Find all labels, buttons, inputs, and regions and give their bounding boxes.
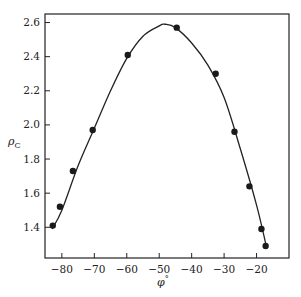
- y-tick-label: 1.8: [23, 153, 40, 165]
- y-tick-label: 2.2: [23, 84, 40, 96]
- x-axis-label: φ°: [157, 274, 169, 289]
- data-points: [50, 24, 269, 249]
- y-tick-label: 2.0: [23, 118, 40, 130]
- data-point: [212, 71, 218, 77]
- x-tick-label: −80: [51, 263, 73, 275]
- x-tick-label: −60: [116, 263, 138, 275]
- data-point: [258, 226, 264, 232]
- x-tick-label: −70: [83, 263, 105, 275]
- data-point: [50, 222, 56, 228]
- x-tick-label: −20: [245, 263, 267, 275]
- data-point: [89, 127, 95, 133]
- data-point: [174, 24, 180, 30]
- data-point: [70, 168, 76, 174]
- fitted-curve: [52, 24, 266, 246]
- data-point: [125, 52, 131, 58]
- x-axis-ticks: −80−70−60−50−40−30−20: [51, 253, 268, 275]
- data-point: [57, 204, 63, 210]
- y-axis-label: ρC: [7, 135, 21, 150]
- x-tick-label: −30: [213, 263, 235, 275]
- y-tick-label: 1.6: [23, 187, 40, 199]
- x-tick-label: −40: [181, 263, 203, 275]
- plot-frame: [45, 14, 289, 258]
- data-point: [262, 243, 268, 249]
- data-point: [246, 183, 252, 189]
- data-point: [231, 129, 237, 135]
- y-tick-label: 2.6: [23, 16, 40, 28]
- y-tick-label: 2.4: [23, 50, 40, 62]
- chart: 1.41.61.82.02.22.42.6 −80−70−60−50−40−30…: [0, 0, 301, 297]
- y-tick-label: 1.4: [23, 221, 40, 233]
- y-axis-ticks: 1.41.61.82.02.22.42.6: [23, 16, 50, 233]
